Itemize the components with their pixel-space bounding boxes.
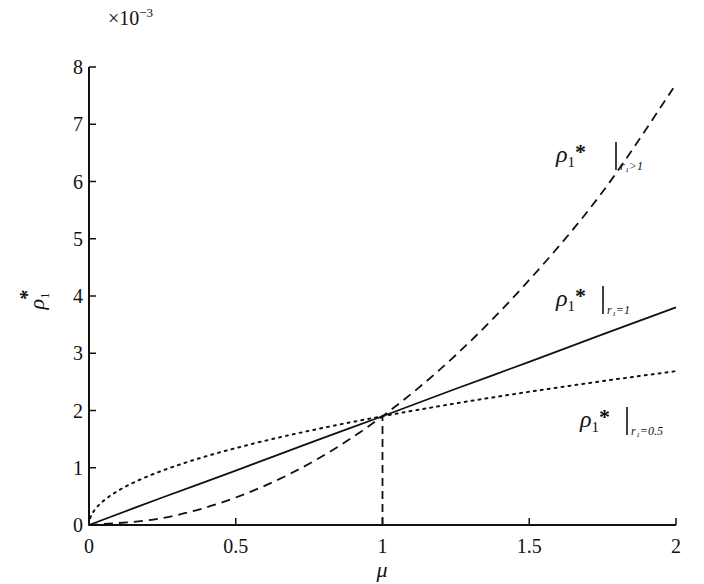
svg-text:r₁=0.5: r₁=0.5 bbox=[631, 424, 663, 438]
y-tick-label: 2 bbox=[73, 400, 83, 422]
y-tick-label: 3 bbox=[73, 342, 83, 364]
y-scale-multiplier: ×10−3 bbox=[108, 5, 153, 29]
y-tick-label: 7 bbox=[73, 113, 83, 135]
annotation-r1-eq-1: ρ1* r₁=1 bbox=[555, 283, 630, 317]
y-tick-label: 6 bbox=[73, 171, 83, 193]
y-axis-label: ρ1* bbox=[16, 289, 52, 310]
x-tick-label: 0.5 bbox=[223, 535, 248, 557]
y-tick-label: 1 bbox=[73, 457, 83, 479]
svg-text:r₁=1: r₁=1 bbox=[607, 303, 630, 317]
x-tick-label: 1 bbox=[378, 535, 388, 557]
svg-text:ρ1*: ρ1* bbox=[555, 139, 586, 170]
x-axis-label: μ bbox=[375, 557, 387, 582]
svg-text:ρ1*: ρ1* bbox=[555, 283, 586, 314]
x-tick-label: 1.5 bbox=[517, 535, 542, 557]
svg-text:r₁>1: r₁>1 bbox=[620, 159, 643, 173]
series-line-dotted bbox=[89, 371, 676, 525]
annotation-r1-gt-1: ρ1* r₁>1 bbox=[555, 139, 643, 173]
axes: 00.511.52012345678 bbox=[73, 56, 681, 557]
y-tick-label: 0 bbox=[73, 514, 83, 536]
y-tick-label: 5 bbox=[73, 228, 83, 250]
line-chart: 00.511.52012345678 ×10−3 μ ρ1* ρ1* r₁>1 … bbox=[0, 0, 704, 584]
annotation-r1-eq-0-5: ρ1* r₁=0.5 bbox=[579, 404, 663, 438]
y-tick-label: 8 bbox=[73, 56, 83, 78]
x-tick-label: 2 bbox=[671, 535, 681, 557]
x-tick-label: 0 bbox=[84, 535, 94, 557]
series-group bbox=[89, 84, 676, 525]
y-tick-label: 4 bbox=[73, 285, 83, 307]
svg-text:ρ1*: ρ1* bbox=[16, 289, 52, 310]
svg-text:ρ1*: ρ1* bbox=[579, 404, 610, 435]
